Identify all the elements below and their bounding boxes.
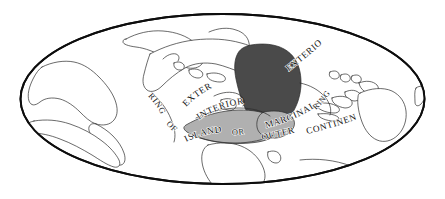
island-chain-a: [329, 71, 339, 79]
world-map-svg: EXTERIOR EXTERIOR INTERIOR MARGINAL RING…: [0, 0, 445, 199]
map-figure: EXTERIOR EXTERIOR INTERIOR MARGINAL RING…: [0, 0, 445, 199]
island-chain-c: [351, 75, 361, 83]
island-chain-b: [340, 74, 350, 82]
label-or: OR: [232, 127, 246, 137]
label-or-text: OR: [232, 127, 246, 137]
